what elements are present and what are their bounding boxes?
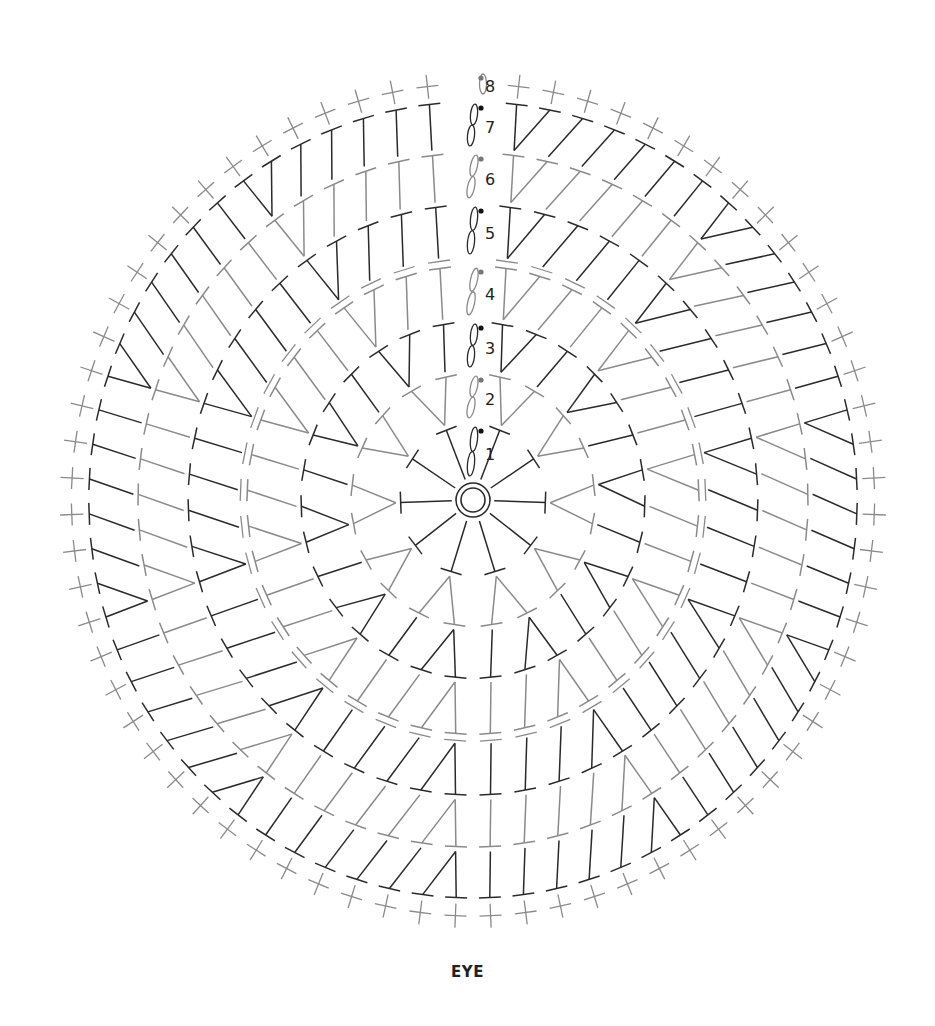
slip-stitch-dot-icon: [478, 75, 483, 80]
start-chain-round-7: 7: [466, 104, 495, 147]
start-chain-round-6: 6: [465, 155, 495, 199]
slip-stitch-dot-icon: [478, 325, 483, 330]
starting-chain-column: 12345678: [465, 74, 495, 476]
round-number-label: 4: [485, 285, 495, 304]
slip-stitch-dot-icon: [478, 269, 483, 274]
slip-stitch-dot-icon: [478, 208, 483, 213]
slip-stitch-dot-icon: [478, 156, 483, 161]
round-number-label: 1: [485, 445, 495, 464]
round-3: [301, 323, 645, 678]
start-chain-round-1: 1: [466, 427, 495, 477]
start-chain-round-2: 2: [465, 376, 495, 419]
diagram-caption: EYE: [0, 963, 935, 981]
round-number-label: 5: [485, 224, 495, 243]
round-1: [400, 426, 545, 575]
round-4: [240, 260, 706, 741]
start-chain-round-3: 3: [466, 324, 495, 368]
crochet-chart: 12345678: [0, 0, 935, 960]
magic-ring-icon: [456, 483, 490, 517]
slip-stitch-dot-icon: [478, 105, 483, 110]
round-number-label: 8: [485, 77, 495, 96]
stitch-rounds: [60, 75, 886, 928]
round-7: [89, 103, 857, 898]
start-chain-round-4: 4: [465, 268, 495, 316]
round-number-label: 6: [485, 170, 495, 189]
round-number-label: 7: [485, 118, 495, 137]
round-6: [138, 154, 808, 847]
slip-stitch-dot-icon: [478, 428, 483, 433]
start-chain-round-5: 5: [466, 207, 495, 255]
start-chain-round-8: 8: [478, 74, 495, 96]
slip-stitch-dot-icon: [478, 377, 483, 382]
round-8: [60, 75, 886, 928]
round-number-label: 2: [485, 390, 495, 409]
round-number-label: 3: [485, 339, 495, 358]
round-5: [188, 206, 758, 795]
